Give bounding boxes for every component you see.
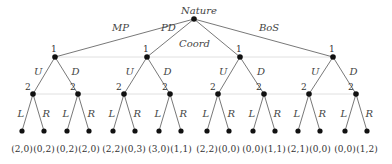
terminal-node xyxy=(64,128,69,133)
player1-move-label: D xyxy=(349,66,358,77)
player2-node xyxy=(215,91,221,97)
nature-move-coord: Coord xyxy=(179,38,210,49)
player1-move-label: D xyxy=(256,66,265,77)
payoff-label: (1,1) xyxy=(170,144,191,154)
terminal-node xyxy=(204,128,209,133)
player2-node xyxy=(167,91,173,97)
terminal-node xyxy=(250,128,255,133)
player1-move-label: U xyxy=(311,66,320,77)
player2-move-label: L xyxy=(17,108,25,119)
terminal-node xyxy=(364,128,369,133)
player1-node-label: 1 xyxy=(143,44,149,54)
player2-move-label: R xyxy=(273,108,282,119)
nature-move-bos: BoS xyxy=(258,22,279,33)
player2-node xyxy=(306,91,312,97)
player2-move-label: L xyxy=(202,108,210,119)
payoff-label: (0,3) xyxy=(124,144,145,154)
terminal-node xyxy=(132,128,137,133)
player1-move-label: U xyxy=(126,66,135,77)
player2-node xyxy=(121,91,127,97)
player2-move-label: R xyxy=(87,108,96,119)
player2-node-label: 2 xyxy=(116,82,122,92)
player1-node-label: 1 xyxy=(51,44,57,54)
player1-move-label: U xyxy=(219,66,228,77)
player2-node-label: 2 xyxy=(70,82,76,92)
terminal-node xyxy=(178,128,183,133)
player2-move-label: R xyxy=(227,108,236,119)
player2-move-label: L xyxy=(108,108,116,119)
player2-node-label: 2 xyxy=(210,82,216,92)
player2-move-label: L xyxy=(62,108,70,119)
payoff-label: (0,0) xyxy=(309,144,330,154)
player2-move-label: R xyxy=(42,108,51,119)
terminal-node xyxy=(156,128,161,133)
player2-node-label: 2 xyxy=(348,82,354,92)
player2-node-label: 2 xyxy=(256,82,262,92)
payoff-label: (3,0) xyxy=(148,144,169,154)
player1-node xyxy=(144,54,150,60)
player2-node xyxy=(30,91,36,97)
payoff-label: (1,2) xyxy=(356,144,377,154)
player2-move-label: R xyxy=(365,108,374,119)
player1-node-label: 1 xyxy=(236,44,242,54)
player2-node-label: 2 xyxy=(162,82,168,92)
player1-move-label: D xyxy=(163,66,172,77)
player2-node-label: 2 xyxy=(301,82,307,92)
payoff-label: (0,0) xyxy=(334,144,355,154)
player2-move-label: R xyxy=(318,108,327,119)
player1-node xyxy=(330,54,336,60)
player2-node xyxy=(261,91,267,97)
nature-move-pd: PD xyxy=(160,22,176,33)
player2-move-label: L xyxy=(340,108,348,119)
nature-label: Nature xyxy=(180,5,217,16)
player2-move-label: R xyxy=(179,108,188,119)
payoff-label: (0,0) xyxy=(242,144,263,154)
player1-move-label: U xyxy=(34,66,43,77)
payoff-label: (2,0) xyxy=(78,144,99,154)
nature-node xyxy=(191,16,197,22)
payoff-label: (0,0) xyxy=(218,144,239,154)
terminal-node xyxy=(295,128,300,133)
terminal-node xyxy=(272,128,277,133)
terminal-node xyxy=(110,128,115,133)
player2-node-label: 2 xyxy=(25,82,31,92)
player2-move-label: L xyxy=(248,108,256,119)
player1-move-label: D xyxy=(71,66,80,77)
player2-move-label: R xyxy=(133,108,142,119)
player1-node xyxy=(237,54,243,60)
player1-node-label: 1 xyxy=(329,44,335,54)
player2-move-label: L xyxy=(293,108,301,119)
payoff-label: (2,2) xyxy=(196,144,217,154)
nature-move-mp: MP xyxy=(111,22,129,33)
player2-node xyxy=(75,91,81,97)
information-sets xyxy=(33,57,356,94)
terminal-node xyxy=(342,128,347,133)
player2-move-label: L xyxy=(154,108,162,119)
terminal-node xyxy=(86,128,91,133)
payoff-label: (1,1) xyxy=(264,144,285,154)
player2-node xyxy=(353,91,359,97)
payoff-label: (0,2) xyxy=(33,144,54,154)
terminal-node xyxy=(19,128,24,133)
labels: UDUDUDUDL(2,0)R(0,2)2L(0,2)R(2,0)2L(2,2)… xyxy=(11,44,377,154)
player1-node xyxy=(52,54,58,60)
terminal-node xyxy=(226,128,231,133)
payoff-label: (2,1) xyxy=(287,144,308,154)
payoff-label: (2,0) xyxy=(11,144,32,154)
payoff-label: (2,2) xyxy=(102,144,123,154)
terminal-node xyxy=(41,128,46,133)
terminal-node xyxy=(317,128,322,133)
game-tree: UDUDUDUDL(2,0)R(0,2)2L(0,2)R(2,0)2L(2,2)… xyxy=(0,0,392,164)
payoff-label: (0,2) xyxy=(56,144,77,154)
